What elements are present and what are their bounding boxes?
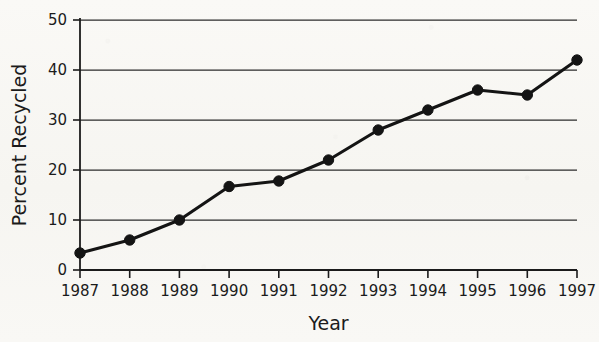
y-tick-label-20: 20	[48, 161, 67, 179]
x-tick-label-1991: 1991	[260, 282, 298, 300]
x-tick-label-1996: 1996	[508, 282, 546, 300]
data-point-1993	[373, 125, 383, 135]
line-chart: 01020304050 1987198819891990199119921993…	[0, 0, 599, 342]
y-tick-marks	[73, 20, 80, 270]
x-tick-label-1990: 1990	[210, 282, 248, 300]
gridlines	[80, 20, 577, 270]
y-tick-label-0: 0	[57, 261, 67, 279]
data-point-1997	[572, 55, 582, 65]
x-tick-label-1995: 1995	[459, 282, 497, 300]
x-tick-label-1992: 1992	[309, 282, 347, 300]
data-point-1992	[323, 155, 333, 165]
data-point-1988	[125, 235, 135, 245]
x-tick-label-1993: 1993	[359, 282, 397, 300]
data-point-1995	[472, 85, 482, 95]
data-point-1991	[274, 176, 284, 186]
x-axis-title: Year	[307, 312, 348, 334]
data-point-1987	[75, 248, 85, 258]
chart-page: 01020304050 1987198819891990199119921993…	[0, 0, 599, 342]
y-tick-labels: 01020304050	[48, 11, 67, 279]
x-tick-label-1994: 1994	[409, 282, 447, 300]
x-tick-label-1997: 1997	[558, 282, 596, 300]
x-tick-label-1989: 1989	[160, 282, 198, 300]
y-axis-title: Percent Recycled	[8, 64, 30, 227]
data-point-1989	[174, 215, 184, 225]
y-tick-label-30: 30	[48, 111, 67, 129]
x-tick-label-1987: 1987	[61, 282, 99, 300]
x-tick-label-1988: 1988	[111, 282, 149, 300]
x-tick-labels: 1987198819891990199119921993199419951996…	[61, 282, 596, 300]
data-point-1994	[423, 105, 433, 115]
y-tick-label-50: 50	[48, 11, 67, 29]
x-tick-marks	[80, 270, 577, 278]
y-tick-label-40: 40	[48, 61, 67, 79]
y-tick-label-10: 10	[48, 211, 67, 229]
data-point-1990	[224, 181, 234, 191]
data-point-markers	[75, 55, 582, 258]
data-point-1996	[522, 90, 532, 100]
